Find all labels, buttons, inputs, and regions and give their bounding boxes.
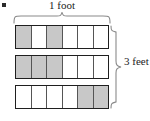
grid-cell	[16, 26, 32, 48]
grid-cell	[16, 56, 32, 78]
grid-cell	[32, 86, 48, 108]
table-row	[15, 25, 109, 49]
grid-cell	[78, 86, 94, 108]
grid-cell	[78, 26, 94, 48]
top-measure-label: 1 foot	[16, 0, 108, 12]
grid-cell	[63, 86, 79, 108]
grid-cell	[16, 86, 32, 108]
table-row	[15, 85, 109, 109]
grid-cell	[63, 56, 79, 78]
top-brace-icon	[13, 12, 111, 24]
grid-cell	[63, 26, 79, 48]
grid-cell	[78, 56, 94, 78]
right-measure-label: 3 feet	[124, 55, 149, 68]
grid-cell	[94, 26, 109, 48]
bullet-marker	[2, 3, 6, 7]
grid-cell	[32, 26, 48, 48]
grid-cell	[47, 86, 63, 108]
table-row	[15, 55, 109, 79]
grid-cell	[47, 26, 63, 48]
grid	[15, 25, 109, 109]
grid-cell	[94, 56, 109, 78]
area-model-figure: 1 foot 3 f	[0, 0, 150, 121]
grid-cell	[94, 86, 109, 108]
grid-cell	[47, 56, 63, 78]
right-brace-icon	[110, 25, 123, 109]
grid-cell	[32, 56, 48, 78]
